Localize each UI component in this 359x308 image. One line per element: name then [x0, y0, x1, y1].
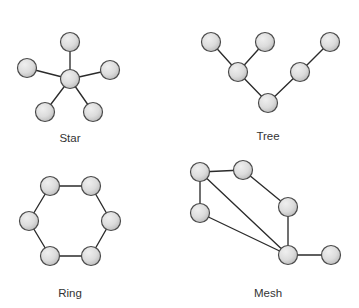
topology-canvas: StarTreeRingMesh: [0, 0, 359, 308]
node-r-top-right: [82, 177, 101, 196]
node-s-bottom-left: [36, 103, 55, 122]
node-s-right: [101, 61, 120, 80]
node-r-top-left: [41, 177, 60, 196]
node-r-left: [20, 212, 39, 231]
panel-label-star: Star: [59, 132, 80, 144]
node-t-branch-right: [291, 63, 310, 82]
node-m-top-left: [191, 163, 210, 182]
node-t-branch-left: [229, 63, 248, 82]
network-topology-figure: StarTreeRingMesh: [0, 0, 359, 308]
node-m-mid-right: [279, 198, 298, 217]
node-m-far-right: [322, 246, 341, 265]
node-t-leaf-c: [321, 33, 340, 52]
node-m-left: [191, 204, 210, 223]
node-s-top: [61, 33, 80, 52]
node-s-left: [18, 59, 37, 78]
node-m-hub: [279, 246, 298, 265]
node-t-leaf-a: [202, 33, 221, 52]
panel-label-ring: Ring: [58, 287, 82, 299]
node-m-top-right: [234, 161, 253, 180]
node-s-bottom-right: [84, 103, 103, 122]
node-r-bottom-left: [41, 247, 60, 266]
node-r-right: [102, 212, 121, 231]
panel-label-mesh: Mesh: [254, 287, 282, 299]
node-t-leaf-b: [256, 33, 275, 52]
node-t-root: [259, 94, 278, 113]
node-s-center: [61, 70, 80, 89]
node-r-bottom-right: [82, 247, 101, 266]
panel-label-tree: Tree: [256, 130, 279, 142]
